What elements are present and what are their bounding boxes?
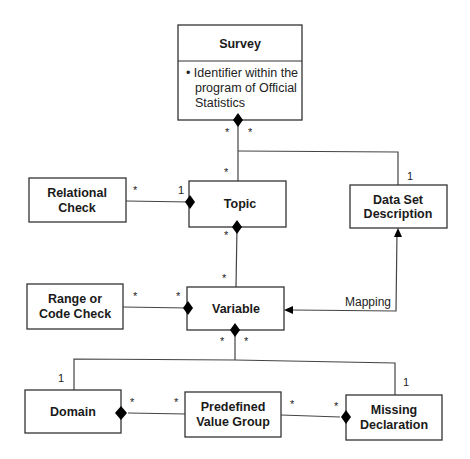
class-missing-declaration[interactable]: Missing Declaration (346, 395, 442, 440)
variable-label: Variable (212, 302, 260, 316)
multiplicity: * (244, 335, 249, 347)
class-survey[interactable]: Survey • Identifier within the program o… (178, 25, 302, 120)
survey-attribute-line-2: program of Official (195, 81, 297, 95)
survey-attribute-line-3: Statistics (195, 96, 245, 110)
relational-check-label-1: Relational (47, 186, 107, 200)
class-topic[interactable]: Topic (189, 181, 286, 227)
pvg-label-1: Predefined (201, 400, 266, 414)
multiplicity: 1 (58, 372, 64, 384)
multiplicity: * (290, 398, 295, 410)
rangecheck-variable-association (123, 307, 188, 308)
multiplicity: * (130, 396, 135, 408)
class-domain[interactable]: Domain (25, 390, 121, 433)
survey-attribute-line-1: • Identifier within the (186, 66, 298, 80)
domain-label: Domain (50, 405, 96, 419)
uml-class-diagram: Survey • Identifier within the program o… (0, 0, 470, 459)
relcheck-topic-association (126, 201, 190, 202)
variable-domain-missing-association (74, 359, 395, 396)
data-set-description-label-1: Data Set (373, 193, 424, 207)
relational-check-label-2: Check (58, 201, 96, 215)
multiplicity: * (222, 272, 227, 284)
dataset-arrowhead-icon (394, 228, 402, 237)
mapping-label: Mapping (345, 295, 391, 309)
class-relational-check[interactable]: Relational Check (29, 178, 126, 222)
range-check-label-1: Range or (48, 292, 102, 306)
class-data-set-description[interactable]: Data Set Description (350, 185, 447, 228)
pvg-label-2: Value Group (196, 415, 270, 429)
topic-label: Topic (224, 197, 256, 211)
multiplicity: * (334, 400, 339, 412)
multiplicity: * (248, 126, 253, 138)
multiplicity: 1 (178, 184, 184, 196)
data-set-description-label-2: Description (364, 207, 433, 221)
multiplicity: * (220, 335, 225, 347)
multiplicity: * (176, 290, 181, 302)
class-range-or-code-check[interactable]: Range or Code Check (27, 284, 123, 329)
multiplicity: * (133, 184, 138, 196)
multiplicity: 1 (407, 170, 413, 182)
multiplicity: * (174, 396, 179, 408)
multiplicity: 1 (403, 376, 409, 388)
range-check-label-2: Code Check (39, 307, 111, 321)
domain-pvg-association (128, 413, 186, 414)
multiplicity: * (224, 166, 229, 178)
multiplicity: * (225, 126, 230, 138)
multiplicity: * (224, 229, 229, 241)
missing-declaration-label-2: Declaration (360, 418, 428, 432)
pvg-missing-association (281, 415, 340, 417)
class-variable[interactable]: Variable (187, 287, 284, 330)
class-predefined-value-group[interactable]: Predefined Value Group (185, 392, 281, 437)
multiplicity: * (133, 290, 138, 302)
missing-declaration-label-1: Missing (371, 403, 418, 417)
variable-arrowhead-icon (284, 306, 293, 314)
topic-variable-association (236, 227, 237, 287)
survey-title: Survey (219, 37, 261, 51)
